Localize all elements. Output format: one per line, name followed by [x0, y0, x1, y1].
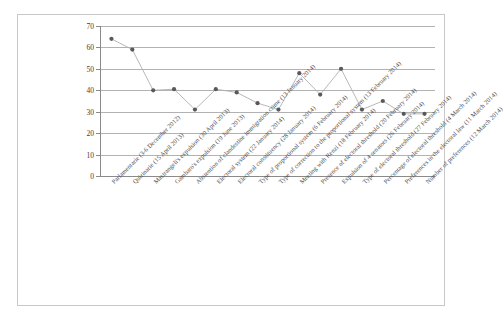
data-point — [318, 92, 322, 96]
data-point — [109, 37, 113, 41]
data-point — [339, 67, 343, 71]
y-tick-label: 30 — [87, 107, 95, 116]
y-tick-label: 60 — [87, 43, 95, 52]
data-point — [235, 90, 239, 94]
y-tick-label: 20 — [87, 129, 95, 138]
y-axis-labels: 010203040506070 — [68, 26, 94, 177]
y-tick-mark — [96, 155, 100, 156]
y-tick-mark — [96, 26, 100, 27]
data-point — [297, 71, 301, 75]
y-tick-mark — [96, 69, 100, 70]
y-tick-mark — [96, 47, 100, 48]
y-tick-mark — [96, 176, 100, 177]
y-tick-mark — [96, 90, 100, 91]
y-tick-label: 40 — [87, 86, 95, 95]
data-point — [381, 99, 385, 103]
data-point — [402, 112, 406, 116]
gridline — [101, 176, 435, 177]
line-series — [101, 26, 435, 176]
y-tick-label: 70 — [87, 22, 95, 31]
data-point — [255, 101, 259, 105]
data-point — [172, 87, 176, 91]
y-tick-label: 50 — [87, 64, 95, 73]
y-tick-mark — [96, 133, 100, 134]
series-line — [111, 39, 424, 114]
data-point — [422, 112, 426, 116]
data-point — [360, 107, 364, 111]
data-point — [276, 107, 280, 111]
y-tick-label: 10 — [87, 150, 95, 159]
data-point — [193, 107, 197, 111]
y-tick-mark — [96, 112, 100, 113]
data-point — [130, 47, 134, 51]
data-point — [214, 87, 218, 91]
data-point — [151, 88, 155, 92]
y-tick-label: 0 — [90, 172, 94, 181]
plot-area — [101, 26, 435, 176]
